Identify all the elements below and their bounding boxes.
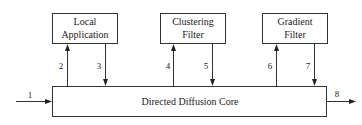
edge-7: 7 (306, 44, 317, 86)
node-local-application: Local Application (53, 14, 118, 44)
edge-label: 5 (204, 61, 209, 71)
node-label-line-1: Gradient (278, 16, 313, 27)
arrowhead-down-icon (103, 79, 108, 86)
edge-label: 7 (306, 61, 311, 71)
node-gradient-filter: Gradient Filter (263, 14, 328, 44)
arrowhead-up-icon (171, 44, 176, 51)
edge-2: 2 (59, 44, 70, 86)
node-label-line-2: Filter (182, 29, 204, 40)
edge-label: 3 (97, 61, 102, 71)
arrowhead-up-icon (65, 44, 70, 51)
edge-8: 8 (327, 89, 356, 104)
edge-label: 1 (28, 90, 33, 100)
edge-1: 1 (16, 90, 52, 104)
edge-6: 6 (268, 44, 279, 86)
node-label-line-1: Local (74, 16, 97, 27)
node-directed-diffusion-core: Directed Diffusion Core (53, 87, 327, 117)
edge-4: 4 (166, 44, 176, 86)
edge-label: 8 (335, 89, 340, 99)
edge-5: 5 (204, 44, 215, 86)
node-label-line-1: Clustering (172, 16, 214, 27)
arrowhead-up-icon (274, 44, 279, 51)
edge-3: 3 (97, 44, 108, 86)
arrowhead-down-icon (210, 79, 215, 86)
node-label-line-2: Filter (284, 29, 306, 40)
edge-label: 4 (166, 61, 171, 71)
arrowhead-down-icon (312, 79, 317, 86)
edge-label: 2 (59, 61, 64, 71)
arrowhead-right-icon (45, 99, 52, 104)
node-label: Directed Diffusion Core (141, 96, 239, 107)
node-label-line-2: Application (61, 29, 108, 40)
directed-diffusion-diagram: Local Application Clustering Filter Grad… (0, 0, 362, 125)
node-clustering-filter: Clustering Filter (161, 14, 226, 44)
edge-label: 6 (268, 61, 273, 71)
arrowhead-right-icon (349, 99, 356, 104)
